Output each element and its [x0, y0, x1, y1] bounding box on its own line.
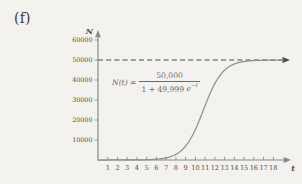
x-axis: t 123456789101112131415161718 — [98, 157, 295, 173]
x-tick-label: 1 — [106, 164, 110, 172]
x-tick-label: 8 — [174, 164, 178, 172]
x-tick-label: 5 — [145, 164, 149, 172]
x-tick-label: 16 — [250, 164, 258, 172]
y-tick-label: 60000 — [72, 36, 92, 44]
x-tick-label: 6 — [154, 164, 158, 172]
figure-container: (f) N 100002000030000400005000060000 t 1… — [0, 0, 302, 184]
y-axis-arrowhead — [95, 30, 101, 37]
y-axis-label: N — [85, 26, 94, 36]
equation-left-side: N(t) = — [112, 78, 136, 87]
y-tick-label: 10000 — [72, 136, 92, 144]
y-tick-label: 50000 — [72, 56, 92, 64]
x-tick-label: 15 — [240, 164, 248, 172]
y-tick-label: 20000 — [72, 116, 92, 124]
y-tick-label: 30000 — [72, 96, 92, 104]
x-tick-label: 3 — [125, 164, 129, 172]
equation-numerator: 50,000 — [152, 72, 187, 81]
y-axis: N 100002000030000400005000060000 — [72, 26, 101, 160]
x-axis-arrowhead — [284, 157, 291, 163]
x-tick-label: 17 — [259, 164, 267, 172]
y-tick-label: 40000 — [72, 76, 92, 84]
x-tick-label: 12 — [211, 164, 219, 172]
equation-exp-power: −t — [191, 83, 198, 89]
x-tick-label: 10 — [191, 164, 199, 172]
x-tick-label: 14 — [230, 164, 238, 172]
equation-denominator: 1 + 49,999 e−t — [139, 81, 199, 94]
x-tick-label: 18 — [269, 164, 277, 172]
x-tick-label: 9 — [184, 164, 188, 172]
y-axis-tick-labels: 100002000030000400005000060000 — [72, 36, 92, 144]
equation-fraction: 50,000 1 + 49,999 e−t — [139, 72, 199, 94]
equation-denominator-prefix: 1 + 49,999 — [141, 84, 184, 93]
x-tick-label: 11 — [201, 164, 209, 172]
x-tick-label: 4 — [135, 164, 139, 172]
x-axis-label: t — [291, 163, 295, 173]
x-axis-tick-labels: 123456789101112131415161718 — [106, 164, 278, 172]
x-tick-label: 7 — [164, 164, 168, 172]
x-tick-label: 13 — [220, 164, 228, 172]
x-tick-label: 2 — [115, 164, 119, 172]
equation-annotation: N(t) = 50,000 1 + 49,999 e−t — [112, 72, 200, 94]
equation-exponential: e−t — [184, 84, 198, 93]
